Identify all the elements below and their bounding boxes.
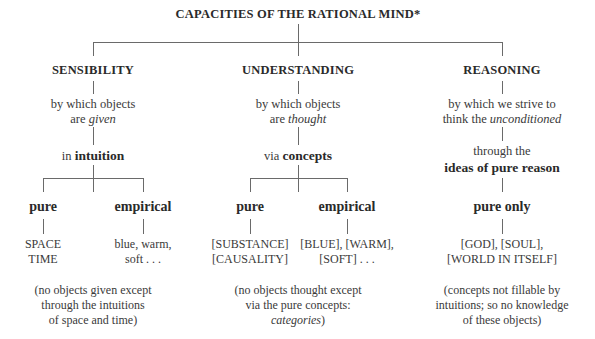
- column-note: categories): [271, 314, 325, 328]
- connector: [502, 127, 503, 141]
- connector: [347, 219, 348, 234]
- branch-item: TIME: [28, 253, 57, 267]
- mode-term: ideas of pure reason: [444, 160, 559, 176]
- branch-item: [GOD], [SOUL],: [461, 238, 543, 252]
- emphasis: categories: [271, 313, 321, 327]
- connector: [502, 219, 503, 234]
- branch-item: blue, warm,: [115, 238, 172, 252]
- connector: [502, 42, 503, 56]
- column-note: through the intuitions: [41, 299, 144, 313]
- emphasis: unconditioned: [490, 112, 562, 126]
- branch-label-pure: pure: [29, 199, 57, 215]
- text: in: [62, 149, 75, 163]
- column-note: (concepts not fillable by: [444, 284, 560, 298]
- column-note: via the pure concepts:: [246, 299, 351, 313]
- branch-item: [BLUE], [WARM],: [300, 238, 394, 252]
- connector: [502, 81, 503, 94]
- connector: [347, 178, 348, 192]
- column-note: of space and time): [49, 314, 137, 328]
- emphasis: thought: [288, 112, 326, 126]
- mode-term: intuition: [75, 148, 125, 163]
- branch-item: [CAUSALITY]: [212, 253, 288, 267]
- column-description: by which objects: [51, 97, 136, 111]
- connector: [43, 219, 44, 234]
- column-heading: SENSIBILITY: [52, 63, 134, 77]
- branch-label-pure-only: pure only: [474, 199, 531, 215]
- connector: [298, 127, 299, 145]
- connector: [93, 127, 94, 145]
- column-note: (no objects given except: [35, 284, 152, 298]
- connector: [250, 178, 348, 179]
- branch-item: [WORLD IN ITSELF]: [447, 253, 557, 267]
- column-mode-line1: through the: [473, 144, 530, 158]
- branch-item: SPACE: [25, 238, 61, 252]
- emphasis: given: [89, 112, 116, 126]
- connector: [143, 219, 144, 234]
- connector: [298, 24, 299, 42]
- column-heading: UNDERSTANDING: [242, 63, 354, 77]
- branch-item: soft . . .: [125, 253, 161, 267]
- connector: [298, 42, 299, 56]
- connector: [43, 178, 143, 179]
- connector: [250, 219, 251, 234]
- column-heading: REASONING: [463, 63, 541, 77]
- connector: [250, 178, 251, 192]
- column-mode: in intuition: [62, 148, 124, 164]
- column-note: of these objects): [463, 314, 542, 328]
- branch-label-empirical: empirical: [115, 199, 172, 215]
- column-note: (no objects thought except: [235, 284, 362, 298]
- connector: [93, 42, 94, 56]
- text: via: [264, 149, 282, 163]
- branch-label-pure: pure: [236, 199, 264, 215]
- column-description: by which we strive to: [448, 97, 556, 111]
- column-description: by which objects: [256, 97, 341, 111]
- mode-term: concepts: [282, 148, 332, 163]
- connector: [143, 178, 144, 192]
- column-note: intuitions; so no knowledge: [436, 299, 569, 313]
- column-description-line2: think the unconditioned: [443, 112, 562, 126]
- text: are: [70, 112, 88, 126]
- text: are: [270, 112, 288, 126]
- branch-item: [SOFT] . . .: [319, 253, 374, 267]
- branch-label-empirical: empirical: [319, 199, 376, 215]
- branch-item: [SUBSTANCE]: [211, 238, 288, 252]
- connector: [502, 178, 503, 192]
- column-description-line2: are given: [70, 112, 115, 126]
- text: think the: [443, 112, 490, 126]
- connector: [298, 81, 299, 94]
- connector: [43, 178, 44, 192]
- connector: [93, 81, 94, 94]
- column-mode: via concepts: [264, 148, 332, 164]
- column-description-line2: are thought: [270, 112, 327, 126]
- text: ): [321, 313, 325, 327]
- diagram-title: CAPACITIES OF THE RATIONAL MIND*: [176, 7, 421, 21]
